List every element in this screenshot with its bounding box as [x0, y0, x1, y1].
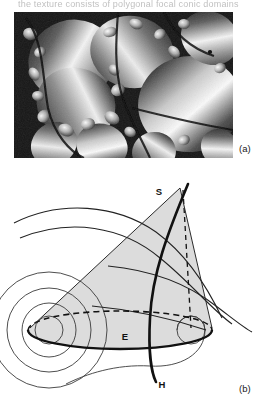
- panel-b-diagram: S E H: [0, 178, 271, 408]
- diagram-svg: S E H: [0, 178, 271, 408]
- panel-a-label: (a): [239, 143, 251, 155]
- label-hyperbola-h: H: [159, 379, 166, 390]
- top-cut-text-fragment: the texture consists of polygonal focal …: [18, 0, 253, 9]
- panel-b-label: (b): [239, 383, 251, 395]
- label-apex-s: S: [156, 186, 162, 197]
- micrograph-dark-speck: [208, 50, 212, 54]
- panel-a-micrograph: [14, 12, 233, 158]
- micrograph-svg: [14, 12, 233, 158]
- figure-root: the texture consists of polygonal focal …: [0, 0, 271, 408]
- label-ellipse-e: E: [122, 331, 128, 342]
